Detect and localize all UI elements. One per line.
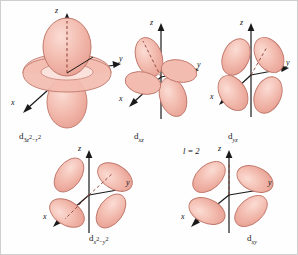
- axis-label-z: z: [55, 7, 58, 15]
- orbital-label-dxz-sub: xz: [139, 136, 144, 143]
- axis-label-y: y: [126, 179, 130, 187]
- orbital-label-dxz: dxz: [134, 132, 144, 143]
- orbital-label-dx2-y2-yexp: 2: [106, 235, 109, 242]
- orbital-dyz-graphic: [211, 21, 295, 125]
- axis-label-x: x: [11, 99, 15, 107]
- orbital-dxy-graphic: [177, 149, 283, 239]
- axis-label-z: z: [150, 19, 153, 27]
- orbital-label-dxy: dxy: [247, 234, 257, 245]
- axis-label-y: y: [286, 59, 290, 67]
- orbital-d3z2-r2-graphic: [9, 7, 129, 125]
- orbital-label-d3z2-r2-rexp: 2: [38, 133, 41, 140]
- axis-label-y: y: [268, 179, 272, 187]
- axis-label-z: z: [78, 145, 81, 153]
- orbital-label-dx2-y2: dx2−y2: [89, 234, 109, 245]
- axis-label-x: x: [43, 213, 47, 221]
- axis-label-x: x: [181, 213, 185, 221]
- axis-label-z: z: [218, 145, 221, 153]
- orbital-label-dyz: dyz: [228, 132, 238, 143]
- d-orbital-figure: z y x d3z2−r2: [0, 0, 298, 255]
- axis-label-x: x: [119, 95, 123, 103]
- axis-label-x: x: [210, 93, 214, 101]
- orbital-dxz-graphic: [119, 21, 205, 125]
- orbital-dxz: z y x: [119, 21, 205, 125]
- axis-label-y: y: [197, 61, 201, 69]
- orbital-label-dxy-sub: xy: [252, 238, 258, 245]
- orbital-label-dyz-sub: yz: [233, 136, 238, 143]
- orbital-dxy: z y x: [177, 149, 283, 239]
- orbital-dyz: z y x: [211, 21, 295, 125]
- orbital-dx2-y2-graphic: [41, 149, 139, 239]
- orbital-dx2-y2: z y x: [41, 149, 139, 239]
- orbital-d3z2-r2: z y x: [9, 7, 129, 125]
- axis-label-z: z: [240, 19, 243, 27]
- orbital-label-d3z2-r2: d3z2−r2: [19, 132, 41, 143]
